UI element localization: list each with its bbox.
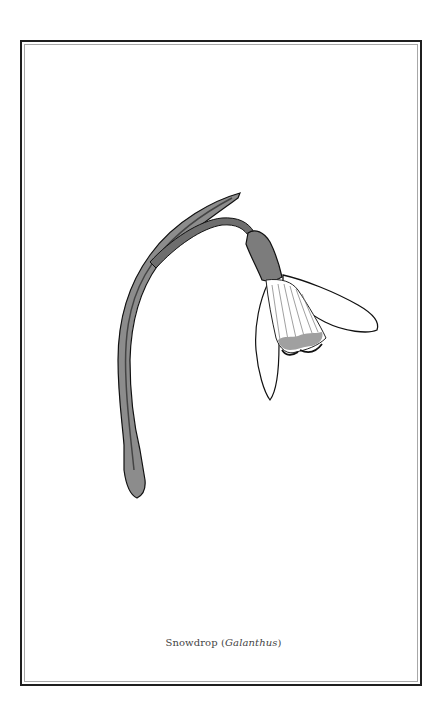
figure-caption: Snowdrop (Galanthus) (0, 637, 447, 648)
caption-close-paren: ) (278, 637, 282, 648)
caption-open-paren: ( (218, 637, 225, 648)
caption-scientific-name: Galanthus (225, 637, 277, 648)
leaf-and-stem (118, 193, 254, 498)
caption-common-name: Snowdrop (165, 637, 217, 648)
ovary (246, 231, 282, 281)
snowdrop-illustration (0, 0, 447, 720)
